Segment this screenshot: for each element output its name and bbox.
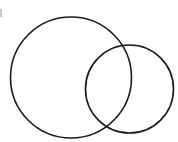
- small-circle: [86, 45, 174, 133]
- large-circle: [11, 17, 132, 138]
- venn-diagram: [0, 0, 178, 142]
